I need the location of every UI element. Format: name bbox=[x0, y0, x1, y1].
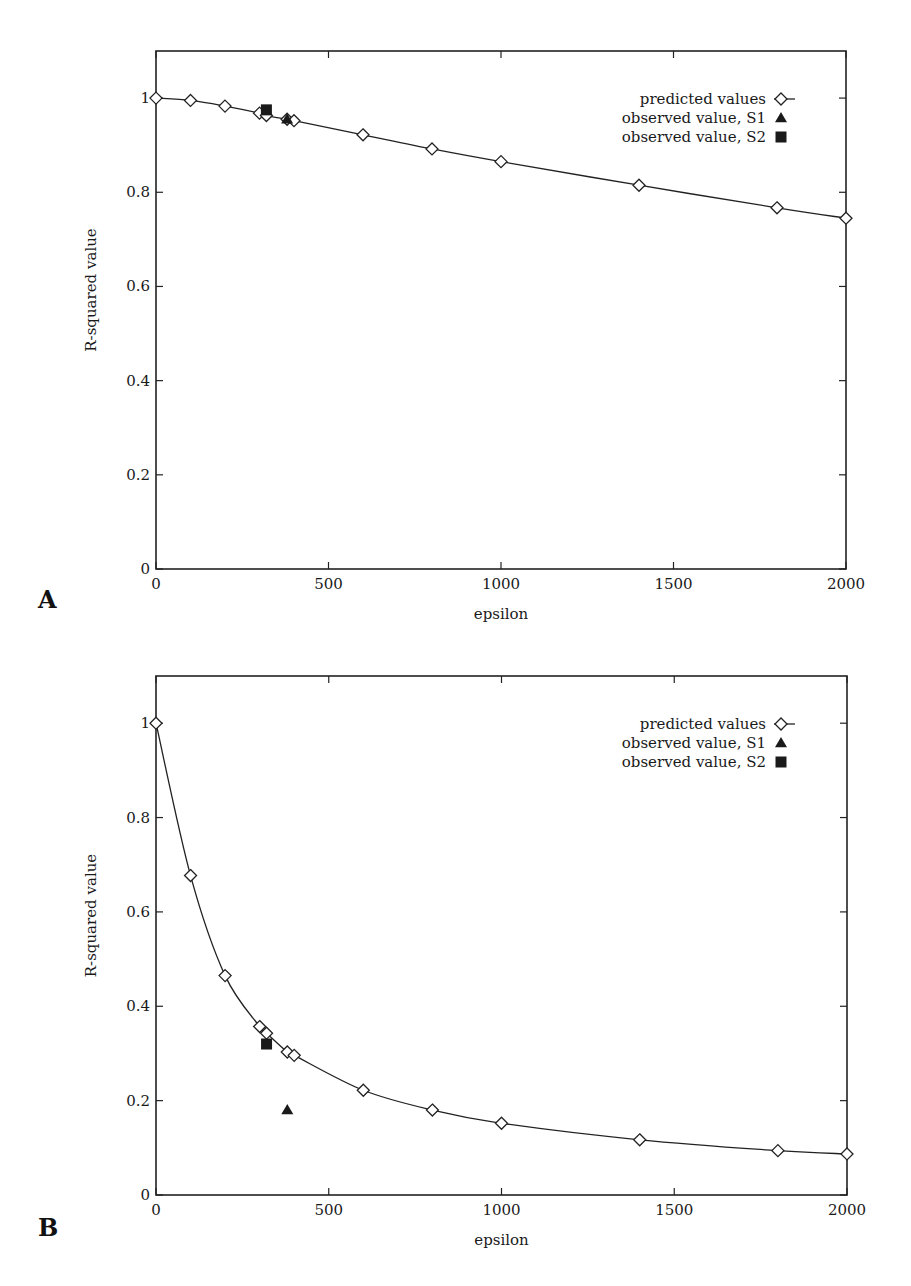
diamond-marker-icon bbox=[633, 179, 645, 191]
square-marker-icon bbox=[261, 104, 272, 115]
panel-letter: B bbox=[38, 1213, 58, 1242]
figure: 050010001500200000.20.40.60.81epsilonR-s… bbox=[0, 0, 911, 1286]
diamond-marker-icon bbox=[219, 100, 231, 112]
legend-label: observed value, S1 bbox=[622, 734, 766, 752]
legend-label: observed value, S1 bbox=[622, 109, 766, 127]
y-tick-label: 1 bbox=[140, 714, 150, 732]
series-observed-value-s1 bbox=[281, 1104, 293, 1114]
series-observed-value-s2 bbox=[261, 1039, 272, 1050]
square-marker-icon bbox=[261, 1039, 272, 1050]
x-tick-label: 2000 bbox=[827, 575, 865, 593]
legend: predicted valuesobserved value, S1observ… bbox=[622, 715, 795, 771]
diamond-marker-icon bbox=[150, 717, 162, 729]
y-tick-label: 0.8 bbox=[126, 183, 150, 201]
diamond-marker-icon bbox=[775, 93, 787, 105]
legend: predicted valuesobserved value, S1observ… bbox=[622, 90, 795, 146]
y-tick-label: 0 bbox=[140, 1186, 150, 1204]
x-axis-label: epsilon bbox=[474, 1231, 529, 1249]
x-tick-label: 2000 bbox=[828, 1201, 866, 1219]
diamond-marker-icon bbox=[634, 1134, 646, 1146]
x-tick-label: 1500 bbox=[655, 1201, 693, 1219]
y-tick-label: 0.6 bbox=[126, 903, 150, 921]
x-tick-label: 1000 bbox=[482, 575, 520, 593]
diamond-marker-icon bbox=[426, 143, 438, 155]
diamond-marker-icon bbox=[841, 1148, 853, 1160]
diamond-marker-icon bbox=[495, 156, 507, 168]
triangle-marker-icon bbox=[281, 1104, 293, 1114]
diamond-marker-icon bbox=[772, 1145, 784, 1157]
y-tick-label: 0.4 bbox=[126, 997, 150, 1015]
series-observed-value-s2 bbox=[261, 104, 272, 115]
legend-label: observed value, S2 bbox=[622, 128, 766, 146]
square-marker-icon bbox=[776, 757, 787, 768]
legend-label: predicted values bbox=[640, 90, 766, 108]
x-tick-label: 500 bbox=[314, 1201, 343, 1219]
y-tick-label: 0.8 bbox=[126, 809, 150, 827]
predicted-curve bbox=[156, 723, 847, 1154]
x-axis-label: epsilon bbox=[474, 605, 529, 623]
diamond-marker-icon bbox=[496, 1117, 508, 1129]
chart-panel-b: 050010001500200000.20.40.60.81epsilonR-s… bbox=[38, 676, 866, 1249]
diamond-marker-icon bbox=[357, 1084, 369, 1096]
y-tick-label: 1 bbox=[140, 89, 150, 107]
y-axis-label: R-squared value bbox=[82, 854, 100, 978]
y-tick-label: 0.6 bbox=[126, 277, 150, 295]
series-predicted-values bbox=[150, 717, 853, 1160]
diamond-marker-icon bbox=[150, 92, 162, 104]
y-tick-label: 0.4 bbox=[126, 372, 150, 390]
y-tick-label: 0.2 bbox=[126, 1092, 150, 1110]
x-tick-label: 500 bbox=[314, 575, 343, 593]
x-tick-label: 0 bbox=[151, 575, 161, 593]
diamond-marker-icon bbox=[357, 129, 369, 141]
legend-label: predicted values bbox=[640, 715, 766, 733]
x-tick-label: 0 bbox=[151, 1201, 161, 1219]
triangle-marker-icon bbox=[775, 737, 787, 747]
x-tick-label: 1000 bbox=[482, 1201, 520, 1219]
y-tick-label: 0 bbox=[140, 560, 150, 578]
x-tick-label: 1500 bbox=[654, 575, 692, 593]
legend-label: observed value, S2 bbox=[622, 753, 766, 771]
diamond-marker-icon bbox=[185, 870, 197, 882]
diamond-marker-icon bbox=[185, 94, 197, 106]
y-tick-label: 0.2 bbox=[126, 466, 150, 484]
triangle-marker-icon bbox=[775, 112, 787, 122]
diamond-marker-icon bbox=[771, 202, 783, 214]
diamond-marker-icon bbox=[775, 718, 787, 730]
diamond-marker-icon bbox=[426, 1104, 438, 1116]
diamond-marker-icon bbox=[219, 970, 231, 982]
y-axis-label: R-squared value bbox=[82, 228, 100, 352]
square-marker-icon bbox=[776, 132, 787, 143]
panel-letter: A bbox=[37, 585, 57, 614]
chart-panel-a: 050010001500200000.20.40.60.81epsilonR-s… bbox=[37, 51, 865, 623]
diamond-marker-icon bbox=[840, 212, 852, 224]
